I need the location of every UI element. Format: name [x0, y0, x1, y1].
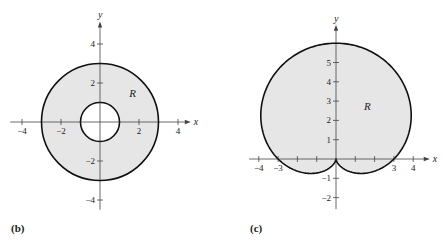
x-tick-label: −3 — [273, 163, 283, 173]
y-axis-label: y — [97, 9, 103, 20]
region-label-R: R — [128, 87, 136, 99]
panel-c-cardioid-graph: xy−4−33454321−1−2R — [249, 13, 438, 209]
y-tick-label: 4 — [91, 39, 96, 49]
x-axis-label: x — [193, 116, 199, 127]
panel-label-b: (b) — [11, 222, 24, 234]
y-axis-label: y — [333, 13, 339, 24]
y-tick-label: 4 — [327, 77, 332, 87]
x-axis-arrow-icon — [185, 120, 191, 124]
x-tick-label: −2 — [56, 126, 66, 136]
x-axis-arrow-icon — [424, 157, 430, 161]
y-tick-label: 2 — [91, 78, 96, 88]
y-tick-label: −4 — [85, 195, 95, 205]
y-tick-label: −2 — [321, 193, 331, 203]
x-tick-label: 4 — [411, 163, 416, 173]
panel-label-c: (c) — [250, 222, 262, 234]
y-tick-label: −2 — [85, 156, 95, 166]
panel-b-annulus-graph: xy−4−22442−2−4R — [10, 9, 199, 209]
y-tick-label: 5 — [327, 58, 332, 68]
y-tick-label: −1 — [321, 173, 331, 183]
x-tick-label: −4 — [17, 126, 27, 136]
y-tick-label: 3 — [327, 96, 332, 106]
x-tick-label: −4 — [254, 163, 264, 173]
region-label-R: R — [363, 100, 371, 112]
figure-canvas: xy−4−22442−2−4R xy−4−33454321−1−2R — [0, 0, 443, 241]
x-tick-label: 4 — [176, 126, 181, 136]
y-tick-label: 2 — [327, 115, 332, 125]
x-tick-label: 3 — [392, 163, 397, 173]
y-tick-label: 1 — [327, 135, 332, 145]
x-tick-label: 2 — [137, 126, 142, 136]
x-axis-label: x — [432, 153, 438, 164]
y-axis-arrow-icon — [98, 21, 102, 27]
y-axis-arrow-icon — [334, 25, 338, 31]
